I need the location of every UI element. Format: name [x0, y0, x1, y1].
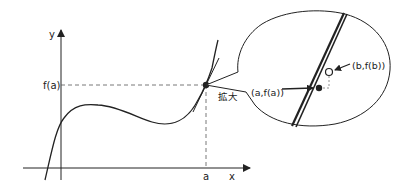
- a-tick-label: a: [203, 171, 209, 182]
- inset-point-a: [316, 85, 322, 91]
- y-axis-label: y: [49, 29, 55, 40]
- zoom-label: 拡大: [218, 91, 238, 102]
- inset-point-b: [326, 69, 333, 76]
- derivative-zoom-diagram: y f(a) a x 拡大 (a,f(a)) (b,f(b)): [0, 0, 403, 191]
- point-b-label: (b,f(b)): [352, 60, 385, 71]
- fa-tick-label: f(a): [43, 80, 61, 91]
- point-a-label: (a,f(a)): [251, 87, 284, 98]
- function-curve: [45, 40, 218, 180]
- x-axis-label: x: [229, 171, 235, 182]
